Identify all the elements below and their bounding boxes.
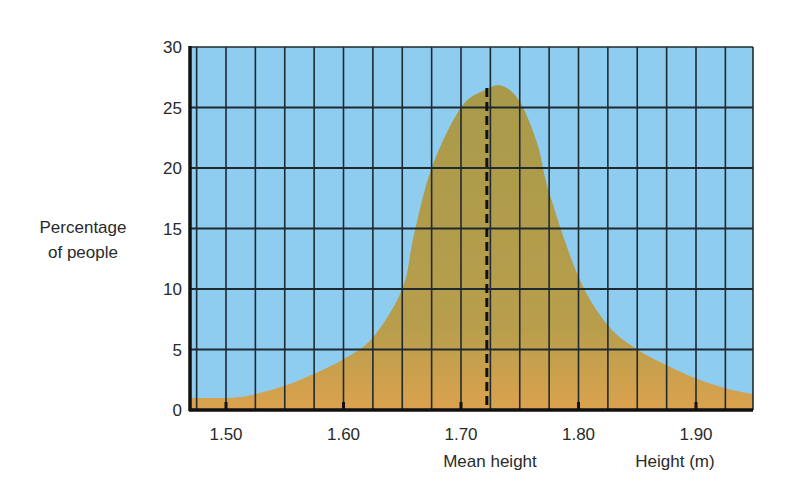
y-tick-label: 20 — [163, 159, 182, 178]
y-tick-label: 25 — [163, 99, 182, 118]
y-tick-label: 10 — [163, 280, 182, 299]
y-tick-label: 0 — [173, 401, 182, 420]
y-tick-label: 30 — [163, 38, 182, 57]
x-tick-label: 1.70 — [444, 425, 477, 444]
x-axis-label: Height (m) — [635, 452, 714, 471]
mean-height-label: Mean height — [443, 452, 537, 471]
y-tick-label: 15 — [163, 220, 182, 239]
x-tick-label: 1.50 — [209, 425, 242, 444]
x-tick-label: 1.90 — [679, 425, 712, 444]
y-axis-label-line2: of people — [48, 243, 118, 262]
y-tick-labels: 051015202530 — [163, 38, 182, 420]
y-axis-label-line1: Percentage — [40, 218, 127, 237]
height-distribution-chart: 051015202530 1.501.601.701.801.90 Percen… — [0, 0, 787, 496]
y-tick-label: 5 — [173, 341, 182, 360]
x-tick-label: 1.60 — [327, 425, 360, 444]
x-tick-label: 1.80 — [562, 425, 595, 444]
